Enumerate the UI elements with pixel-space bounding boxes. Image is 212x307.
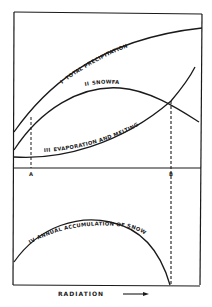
annual-accumulation-curve bbox=[14, 220, 170, 285]
point-b-label: B bbox=[169, 171, 173, 177]
snow-accumulation-diagram: ITOTAL PRECIPITATION IISNOWFALL IIIEVAPO… bbox=[0, 0, 212, 307]
evaporation-melting-label: IIIEVAPORATION AND MELTING bbox=[44, 121, 140, 153]
point-a-label: A bbox=[29, 171, 33, 177]
annual-accumulation-label: IVANNUAL ACCUMULATION OF SNOW bbox=[27, 220, 147, 244]
total-precipitation-label: ITOTAL PRECIPITATION bbox=[59, 42, 129, 84]
x-axis-label: RADIATION bbox=[58, 290, 104, 297]
right-arrow-icon bbox=[123, 292, 149, 296]
